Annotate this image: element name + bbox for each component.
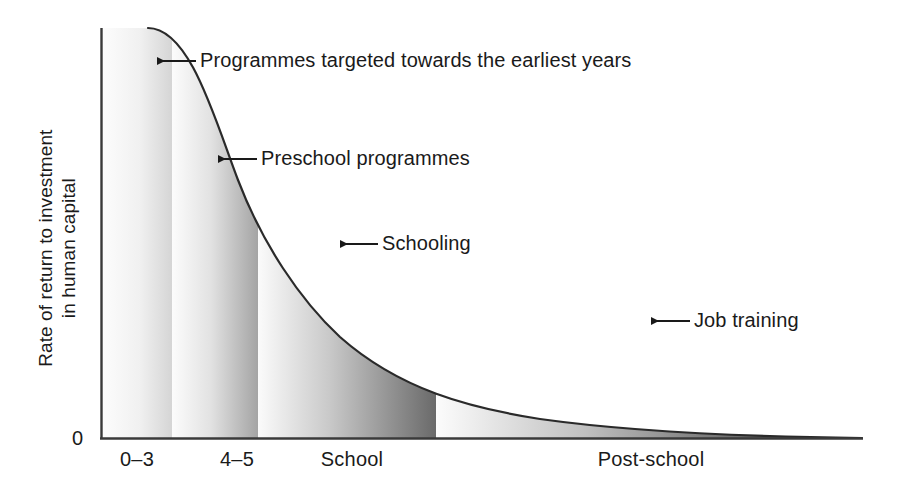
annotation-earliest-years: Programmes targeted towards the earliest…: [200, 49, 631, 72]
annotation-job-training: Job training: [694, 309, 799, 332]
band-school: [258, 20, 436, 440]
y-axis-zero-label: 0: [72, 427, 83, 450]
band-4-5: [172, 20, 258, 440]
category-label-4-5: 4–5: [220, 448, 254, 471]
band-0-3: [101, 20, 172, 440]
category-label-post-school: Post-school: [598, 448, 705, 471]
gradient-bands: [101, 20, 862, 440]
human-capital-return-chart: Rate of return to investmentin human cap…: [0, 0, 909, 495]
category-label-school: School: [321, 448, 383, 471]
annotation-schooling: Schooling: [382, 232, 471, 255]
category-label-0-3: 0–3: [120, 448, 154, 471]
annotation-preschool: Preschool programmes: [261, 147, 470, 170]
band-post-school: [436, 20, 862, 440]
